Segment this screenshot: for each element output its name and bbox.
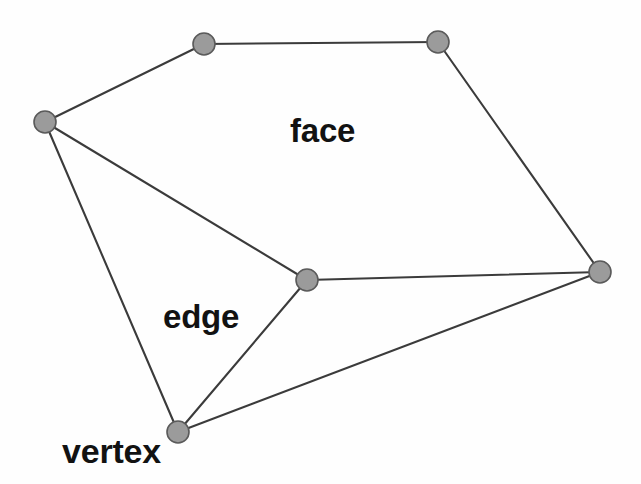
vertices-group [34, 31, 611, 443]
mesh-edge-left-to-bottom [45, 122, 178, 432]
mesh-vertex-top-right [427, 31, 449, 53]
mesh-vertex-top-left [193, 33, 215, 55]
edges-group [45, 42, 600, 432]
mesh-diagram: face edge vertex [0, 0, 641, 484]
mesh-vertex-bottom [167, 421, 189, 443]
mesh-edge-left-to-top-left [45, 44, 204, 122]
mesh-graphic [0, 0, 641, 484]
mesh-edge-top-right-to-right [438, 42, 600, 272]
mesh-edge-bottom-to-right [178, 272, 600, 432]
label-face: face [290, 114, 355, 147]
mesh-edge-left-to-center [45, 122, 307, 280]
mesh-edge-top-left-to-top-right [204, 42, 438, 44]
mesh-edge-center-to-right [307, 272, 600, 280]
label-vertex: vertex [62, 434, 161, 468]
mesh-vertex-center [296, 269, 318, 291]
mesh-vertex-left [34, 111, 56, 133]
mesh-vertex-right [589, 261, 611, 283]
label-edge: edge [163, 300, 239, 333]
